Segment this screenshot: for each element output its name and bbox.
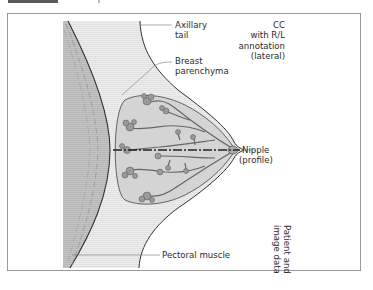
label-line: annotation [238,41,285,51]
label-line: CC [238,20,285,30]
label-line: Patient and [282,225,292,274]
label-line: (profile) [239,155,273,165]
label-nipple: Nipple (profile) [239,145,273,166]
label-line: Axillary [175,20,207,30]
label-line: (lateral) [238,51,285,61]
label-axillary-tail: Axillary tail [175,20,207,41]
label-line: with R/L [238,30,285,40]
breast-cc-diagram [0,0,373,290]
label-breast-parenchyma: Breast parenchyma [175,56,229,77]
label-patient-data: Patient and image data [271,225,292,274]
label-line: Nipple [239,145,273,155]
label-view-annotation: CC with R/L annotation (lateral) [238,20,285,62]
label-line: Breast [175,56,229,66]
label-pectoral-muscle: Pectoral muscle [162,250,230,260]
label-line: tail [175,30,207,40]
label-line: parenchyma [175,66,229,76]
label-line: image data [271,225,281,274]
